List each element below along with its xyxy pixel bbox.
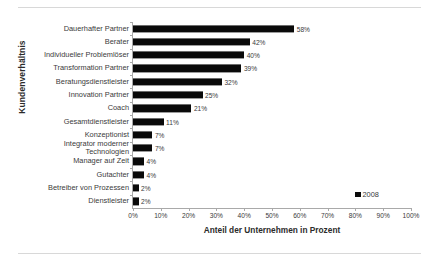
bar-value-label: 4% bbox=[147, 158, 157, 165]
x-axis-tick-label: 0% bbox=[128, 212, 138, 219]
x-axis-tick-label: 100% bbox=[403, 212, 420, 219]
x-axis-tick-label: 40% bbox=[238, 212, 251, 219]
bar bbox=[133, 131, 152, 138]
category-label: Betreiber von Prozessen bbox=[48, 184, 129, 192]
top-divider bbox=[18, 7, 421, 8]
category-label: Dienstleister bbox=[88, 198, 129, 206]
bar bbox=[133, 171, 144, 178]
bar-row: Konzeptionist7% bbox=[133, 128, 411, 141]
bar-row: Integrator moderner Technologien7% bbox=[133, 142, 411, 155]
bar-value-label: 25% bbox=[205, 92, 218, 99]
category-label: Gutachter bbox=[97, 171, 129, 179]
chart-legend: 2008 bbox=[355, 190, 379, 199]
bar-value-label: 40% bbox=[247, 52, 260, 59]
y-axis-tick bbox=[130, 102, 133, 103]
x-axis-tick bbox=[355, 208, 356, 211]
x-axis-tick-label: 30% bbox=[210, 212, 223, 219]
bar-row: Transformation Partner39% bbox=[133, 62, 411, 75]
x-axis-tick bbox=[300, 208, 301, 211]
category-label: Berater bbox=[105, 38, 129, 46]
bar-value-label: 42% bbox=[252, 38, 265, 45]
bar-row: Individueller Problemlöser40% bbox=[133, 49, 411, 62]
bar bbox=[133, 184, 139, 191]
y-axis-tick bbox=[130, 49, 133, 50]
bar-row: Innovation Partner25% bbox=[133, 88, 411, 101]
bar bbox=[133, 38, 250, 45]
bar bbox=[133, 158, 144, 165]
chart-figure: Kundenverhältnis Dauerhafter Partner58%B… bbox=[0, 0, 433, 260]
y-axis-tick bbox=[130, 35, 133, 36]
x-axis-tick bbox=[161, 208, 162, 211]
bar-value-label: 58% bbox=[297, 25, 310, 32]
x-axis-tick-label: 10% bbox=[154, 212, 167, 219]
bar-value-label: 2% bbox=[141, 185, 151, 192]
bar bbox=[133, 145, 152, 152]
bar-row: Gesamtdienstleister11% bbox=[133, 115, 411, 128]
category-label: Gesamtdienstleister bbox=[64, 118, 129, 126]
category-label: Konzeptionist bbox=[85, 131, 129, 139]
y-axis-tick bbox=[130, 142, 133, 143]
category-label: Manager auf Zeit bbox=[73, 158, 129, 166]
bar-row: Coach21% bbox=[133, 102, 411, 115]
category-label: Innovation Partner bbox=[69, 91, 129, 99]
category-label: Coach bbox=[108, 105, 129, 113]
y-axis-tick bbox=[130, 22, 133, 23]
y-axis-tick bbox=[130, 62, 133, 63]
bar-row: Gutachter4% bbox=[133, 168, 411, 181]
bar bbox=[133, 198, 139, 205]
category-label: Dauerhafter Partner bbox=[64, 25, 129, 33]
bar-value-label: 21% bbox=[194, 105, 207, 112]
x-axis-tick bbox=[216, 208, 217, 211]
bar bbox=[133, 78, 222, 85]
x-axis-tick bbox=[328, 208, 329, 211]
x-axis-tick bbox=[272, 208, 273, 211]
y-axis-tick bbox=[130, 155, 133, 156]
bottom-divider bbox=[18, 253, 421, 254]
x-axis-title: Anteil der Unternehmen in Prozent bbox=[133, 225, 411, 235]
category-label: Transformation Partner bbox=[53, 65, 129, 73]
bar-value-label: 4% bbox=[147, 171, 157, 178]
bar-row: Dauerhafter Partner58% bbox=[133, 22, 411, 35]
category-label: Beratungsdienstleister bbox=[56, 78, 129, 86]
x-axis-tick bbox=[411, 208, 412, 211]
bar-value-label: 7% bbox=[155, 131, 165, 138]
bar bbox=[133, 25, 294, 32]
y-axis-title: Kundenverhältnis bbox=[17, 7, 27, 147]
bar-row: Berater42% bbox=[133, 35, 411, 48]
legend-swatch-2008 bbox=[355, 192, 361, 198]
bar-value-label: 32% bbox=[224, 78, 237, 85]
x-axis-tick-label: 90% bbox=[377, 212, 390, 219]
y-axis-tick bbox=[130, 181, 133, 182]
bar bbox=[133, 105, 191, 112]
bar-value-label: 39% bbox=[244, 65, 257, 72]
x-axis-tick bbox=[133, 208, 134, 211]
bar bbox=[133, 91, 203, 98]
x-axis-tick bbox=[383, 208, 384, 211]
bar bbox=[133, 52, 244, 59]
bar-row: Manager auf Zeit4% bbox=[133, 155, 411, 168]
bar bbox=[133, 65, 241, 72]
x-axis-tick-label: 70% bbox=[321, 212, 334, 219]
y-axis-tick bbox=[130, 195, 133, 196]
y-axis-tick bbox=[130, 128, 133, 129]
bar-value-label: 7% bbox=[155, 145, 165, 152]
y-axis-tick bbox=[130, 115, 133, 116]
x-axis-tick-label: 80% bbox=[349, 212, 362, 219]
x-axis-tick-label: 60% bbox=[293, 212, 306, 219]
plot-area: Dauerhafter Partner58%Berater42%Individu… bbox=[133, 22, 411, 208]
y-axis-tick bbox=[130, 168, 133, 169]
category-label: Integrator moderner Technologien bbox=[33, 141, 129, 156]
x-axis-tick bbox=[244, 208, 245, 211]
y-axis-tick bbox=[130, 75, 133, 76]
bar-value-label: 11% bbox=[166, 118, 179, 125]
x-axis-tick-label: 50% bbox=[265, 212, 278, 219]
x-axis-tick bbox=[189, 208, 190, 211]
bar-row: Beratungsdienstleister32% bbox=[133, 75, 411, 88]
legend-label-2008: 2008 bbox=[363, 190, 379, 199]
x-axis-tick-label: 20% bbox=[182, 212, 195, 219]
bar bbox=[133, 118, 164, 125]
category-label: Individueller Problemlöser bbox=[33, 51, 129, 59]
bar-value-label: 2% bbox=[141, 198, 151, 205]
y-axis-tick bbox=[130, 88, 133, 89]
